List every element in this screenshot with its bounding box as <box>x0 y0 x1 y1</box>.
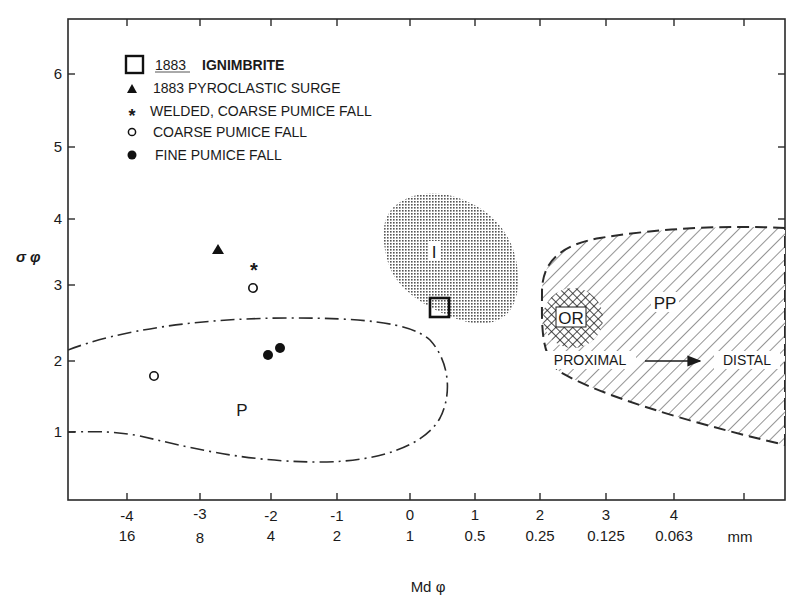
x-phi-tick: -4 <box>120 507 133 524</box>
x-tick-labels-phi: -4 -3 -2 -1 0 1 2 3 4 <box>120 505 678 524</box>
x-phi-tick: 2 <box>536 506 544 523</box>
welded-asterisk-marker: * <box>250 259 258 281</box>
y-tick-3: 3 <box>54 276 62 293</box>
x-mm-tick: 0.25 <box>525 527 554 544</box>
x-tick-labels-mm: 16 8 4 2 1 0.5 0.25 0.125 0.063 mm <box>119 527 753 546</box>
x-mm-tick: 1 <box>406 527 414 544</box>
legend-open-circle-icon <box>128 128 135 135</box>
x-mm-tick: 0.5 <box>465 527 486 544</box>
y-tick-labels: 1 2 3 4 5 6 <box>54 65 62 440</box>
y-tick-1: 1 <box>54 423 62 440</box>
coarse-circle-marker <box>150 372 158 380</box>
y-tick-4: 4 <box>54 210 62 227</box>
x-mm-tick: 0.125 <box>587 527 625 544</box>
x-phi-tick: 4 <box>670 506 678 523</box>
grain-size-chart: 1 2 3 4 5 6 σ φ -4 -3 -2 -1 0 1 <box>0 0 806 609</box>
x-mm-tick: 4 <box>267 527 275 544</box>
legend-fine: FINE PUMICE FALL <box>155 147 282 163</box>
x-mm-tick: 8 <box>196 529 204 546</box>
x-mm-tick: 0.063 <box>655 527 693 544</box>
legend-ignimbrite: IGNIMBRITE <box>202 57 284 73</box>
region-i-field <box>384 194 518 324</box>
x-mm-unit: mm <box>728 528 753 545</box>
x-phi-tick: -3 <box>193 505 206 522</box>
legend-coarse: COARSE PUMICE FALL <box>153 124 307 140</box>
legend-square-icon <box>126 56 143 73</box>
x-phi-tick: 0 <box>406 506 414 523</box>
y-axis-title: σ φ <box>16 248 41 265</box>
region-p-label: P <box>236 401 247 420</box>
region-pp-label: PP <box>654 294 677 313</box>
region-p-outline <box>68 318 447 462</box>
legend-welded: WELDED, COARSE PUMICE FALL <box>150 103 372 119</box>
fine-circle-marker <box>275 343 285 353</box>
x-phi-tick: 3 <box>602 506 610 523</box>
legend-ignimbrite-year: 1883 <box>155 57 186 73</box>
x-phi-tick: -2 <box>264 507 277 524</box>
x-mm-tick: 16 <box>119 527 136 544</box>
fine-circle-marker <box>263 350 273 360</box>
legend-filled-circle-icon <box>128 151 137 160</box>
y-tick-5: 5 <box>54 138 62 155</box>
legend: 1883 IGNIMBRITE 1883 PYROCLASTIC SURGE *… <box>126 56 372 163</box>
coarse-circle-marker <box>249 284 257 292</box>
legend-asterisk-icon: * <box>128 106 135 126</box>
x-phi-tick: -1 <box>330 507 343 524</box>
legend-surge: 1883 PYROCLASTIC SURGE <box>153 80 341 96</box>
y-tick-6: 6 <box>54 65 62 82</box>
x-mm-tick: 2 <box>333 527 341 544</box>
x-axis-title: Md φ <box>411 578 446 595</box>
region-or-label: OR <box>558 309 584 328</box>
proximal-label: PROXIMAL <box>554 352 627 368</box>
y-tick-2: 2 <box>54 352 62 369</box>
region-i-label: I <box>432 243 437 262</box>
surge-triangle-marker <box>212 244 224 254</box>
x-phi-tick: 1 <box>471 506 479 523</box>
distal-label: DISTAL <box>723 352 771 368</box>
legend-triangle-icon <box>127 84 137 93</box>
